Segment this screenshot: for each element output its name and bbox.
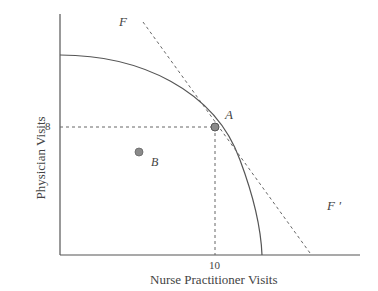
- production-frontier-curve: [60, 55, 262, 255]
- point-label-b: B: [151, 155, 158, 170]
- y-tick-label: 8: [45, 120, 51, 132]
- ppf-diagram: Physician Visits Nurse Practitioner Visi…: [0, 0, 378, 291]
- point-label-a: A: [225, 107, 233, 123]
- point-a-marker: [211, 123, 219, 131]
- x-axis-label: Nurse Practitioner Visits: [150, 272, 278, 288]
- point-b-marker: [135, 148, 143, 156]
- x-tick-label: 10: [209, 259, 220, 271]
- line-label-f-prime: F ′: [327, 198, 341, 214]
- line-label-f: F: [119, 14, 127, 30]
- diagram-canvas: [0, 0, 378, 291]
- tangent-line-ff: [143, 22, 310, 253]
